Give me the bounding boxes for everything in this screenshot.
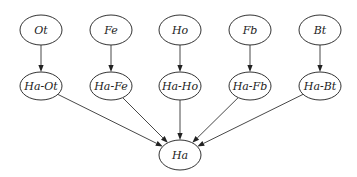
node-label: Ha-Fe: [93, 80, 128, 93]
edge-ha-ho-to-ha: [177, 100, 182, 140]
arrowhead-icon: [197, 141, 204, 146]
arrowhead-icon: [155, 141, 162, 146]
node-ha-bt: Ha-Bt: [299, 72, 341, 100]
edge-ha-fe-to-ha: [123, 98, 168, 143]
edge-ha-fb-to-ha: [192, 98, 238, 143]
node-ha: Ha: [159, 140, 201, 170]
node-label: Ha-Bt: [303, 80, 337, 93]
edge-fe-to-ha-fe: [108, 45, 113, 72]
node-ot: Ot: [20, 15, 62, 45]
edge-fb-to-ha-fb: [247, 45, 252, 72]
nodes: OtFeHoFbBtHa-OtHa-FeHa-HoHa-FbHa-BtHa: [20, 15, 341, 170]
node-ha-ot: Ha-Ot: [20, 72, 62, 100]
edge-ha-bt-to-ha: [197, 94, 303, 146]
dependency-diagram: OtFeHoFbBtHa-OtHa-FeHa-HoHa-FbHa-BtHa: [0, 0, 357, 177]
arrowhead-icon: [177, 133, 182, 140]
arrowhead-icon: [38, 65, 43, 72]
node-fb: Fb: [229, 15, 271, 45]
node-label: Ot: [34, 24, 48, 37]
arrowhead-icon: [177, 65, 182, 72]
edge-ha-ot-to-ha: [58, 94, 163, 146]
edge-line: [123, 98, 163, 138]
node-label: Ha: [171, 149, 188, 162]
node-label: Ho: [171, 24, 189, 37]
node-ha-fe: Ha-Fe: [90, 72, 132, 100]
node-ha-fb: Ha-Fb: [229, 72, 271, 100]
node-fe: Fe: [90, 15, 132, 45]
node-ha-ho: Ha-Ho: [159, 72, 201, 100]
node-label: Ha-Fb: [232, 80, 268, 93]
arrowhead-icon: [108, 65, 113, 72]
edge-line: [58, 94, 157, 143]
edge-ot-to-ha-ot: [38, 45, 43, 72]
node-ho: Ho: [159, 15, 201, 45]
edge-ho-to-ha-ho: [177, 45, 182, 72]
edge-bt-to-ha-bt: [317, 45, 322, 72]
node-label: Fb: [242, 24, 258, 37]
edge-line: [204, 94, 304, 143]
node-bt: Bt: [299, 15, 341, 45]
node-label: Bt: [313, 24, 327, 37]
arrowhead-icon: [247, 65, 252, 72]
node-label: Fe: [103, 24, 118, 37]
node-label: Ha-Ot: [23, 80, 58, 93]
edge-line: [197, 98, 238, 138]
arrowhead-icon: [317, 65, 322, 72]
node-label: Ha-Ho: [161, 80, 198, 93]
